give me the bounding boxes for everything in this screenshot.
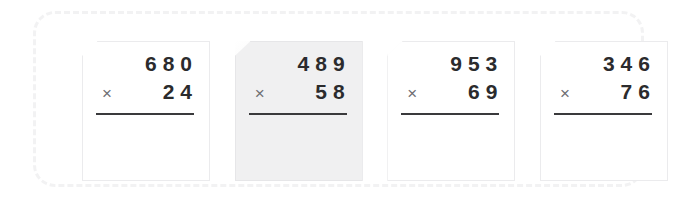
multiplicand-row: 346 [552, 53, 656, 81]
long-multiplication: 346 × 76 [540, 41, 668, 181]
long-multiplication: 953 × 69 [387, 41, 515, 181]
worksheet-frame: 680 × 24 489 [33, 11, 644, 187]
multiplier: 58 [315, 81, 350, 102]
answer-row[interactable] [399, 115, 503, 163]
multiplier: 69 [468, 81, 503, 102]
multiply-operator-icon: × [247, 85, 265, 102]
multiplier-row: × 76 [552, 81, 656, 109]
multiplicand: 489 [298, 53, 351, 74]
answer-row[interactable] [94, 115, 198, 163]
answer-row[interactable] [552, 115, 656, 163]
multiplier: 24 [163, 81, 198, 102]
multiply-operator-icon: × [399, 85, 417, 102]
worksheet-page: 680 × 24 489 [0, 0, 677, 198]
problem-card-row: 680 × 24 489 [82, 41, 668, 187]
problem-card[interactable]: 680 × 24 [82, 41, 210, 181]
problem-card[interactable]: 953 × 69 [387, 41, 515, 181]
multiplicand-row: 680 [94, 53, 198, 81]
multiplier-row: × 24 [94, 81, 198, 109]
multiplicand-row: 489 [247, 53, 351, 81]
answer-row[interactable] [247, 115, 351, 163]
multiplier-row: × 69 [399, 81, 503, 109]
long-multiplication: 489 × 58 [235, 41, 363, 181]
problem-card[interactable]: 346 × 76 [540, 41, 668, 181]
long-multiplication: 680 × 24 [82, 41, 210, 181]
multiplicand: 346 [603, 53, 656, 74]
multiplier-row: × 58 [247, 81, 351, 109]
multiplicand: 680 [145, 53, 198, 74]
multiplicand-row: 953 [399, 53, 503, 81]
multiplicand: 953 [450, 53, 503, 74]
multiplier: 76 [621, 81, 656, 102]
multiply-operator-icon: × [552, 85, 570, 102]
multiply-operator-icon: × [94, 85, 112, 102]
problem-card[interactable]: 489 × 58 [235, 41, 363, 181]
